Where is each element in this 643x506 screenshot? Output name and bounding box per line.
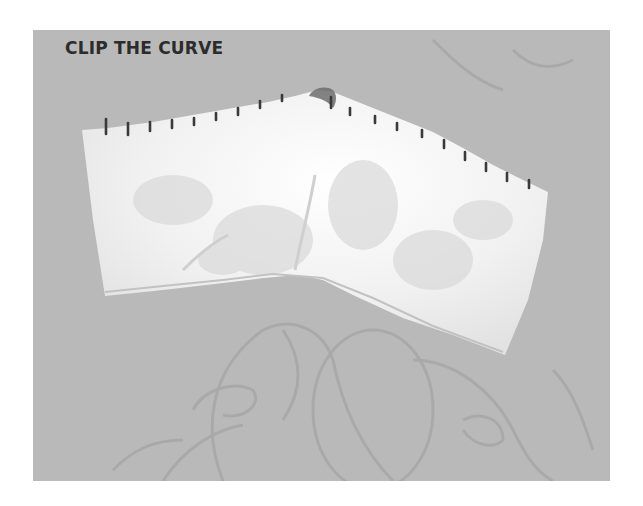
photo-illustration — [33, 30, 610, 481]
photo — [33, 30, 610, 481]
caption-title: CLIP THE CURVE — [65, 38, 223, 58]
